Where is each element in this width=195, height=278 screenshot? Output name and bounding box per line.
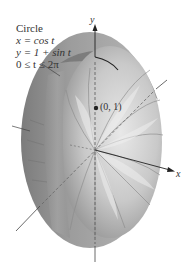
x-axis-arrow-icon bbox=[167, 167, 175, 172]
caption-eq-x: x = cos t bbox=[16, 34, 71, 46]
solid-of-revolution-figure: Circle x = cos t y = 1 + sin t 0 ≤ t ≤ 2… bbox=[0, 0, 195, 278]
point-label: (0, 1) bbox=[100, 101, 122, 113]
y-axis-label: y bbox=[90, 14, 94, 26]
caption-eq-y: y = 1 + sin t bbox=[16, 46, 71, 58]
cut-face bbox=[58, 46, 162, 238]
caption-range: 0 ≤ t ≤ 2π bbox=[16, 58, 71, 70]
curve-caption: Circle x = cos t y = 1 + sin t 0 ≤ t ≤ 2… bbox=[16, 22, 71, 70]
caption-title: Circle bbox=[16, 22, 71, 34]
point-marker bbox=[94, 106, 98, 110]
x-axis-label: x bbox=[176, 168, 180, 180]
